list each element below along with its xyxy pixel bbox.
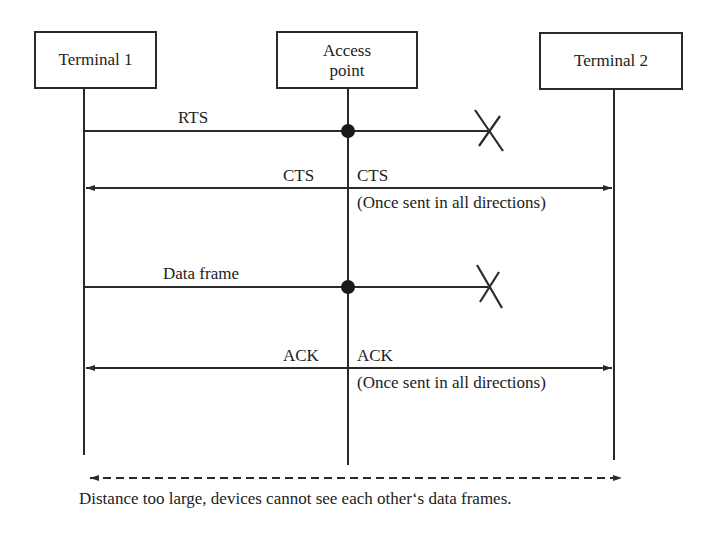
- participant-access-point-label-line-2: point: [330, 61, 365, 81]
- ack-left-label: ACK: [283, 346, 319, 366]
- rts-label: RTS: [178, 108, 208, 128]
- participant-terminal-2: Terminal 2: [539, 32, 683, 90]
- cts-left-label: CTS: [283, 166, 314, 186]
- ack-note: (Once sent in all directions): [357, 373, 546, 393]
- participant-terminal-2-label: Terminal 2: [574, 51, 648, 71]
- cts-right-label: CTS: [357, 166, 388, 186]
- participant-terminal-1-label: Terminal 1: [59, 50, 133, 70]
- distance-caption: Distance too large, devices cannot see e…: [79, 489, 512, 509]
- participant-terminal-1: Terminal 1: [34, 31, 157, 89]
- participant-access-point: Access point: [276, 31, 418, 89]
- ack-right-label: ACK: [357, 346, 393, 366]
- data-frame-label: Data frame: [163, 264, 239, 284]
- participant-access-point-label-line-1: Access: [323, 41, 371, 61]
- data-frame-receive-dot: [341, 280, 355, 294]
- cts-note: (Once sent in all directions): [357, 193, 546, 213]
- rts-receive-dot: [341, 124, 355, 138]
